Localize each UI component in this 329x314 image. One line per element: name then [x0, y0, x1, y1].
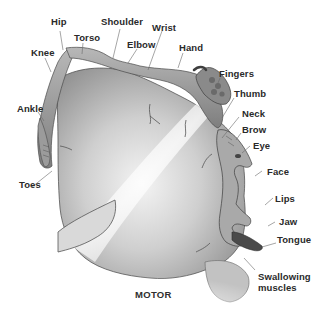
label-tongue: Tongue [277, 235, 311, 245]
label-fingers: Fingers [219, 69, 254, 79]
label-elbow: Elbow [127, 40, 155, 50]
label-jaw: Jaw [279, 217, 297, 227]
label-thumb: Thumb [234, 89, 266, 99]
label-wrist: Wrist [152, 23, 176, 33]
label-lips: Lips [275, 194, 295, 204]
label-hand: Hand [179, 43, 203, 53]
motor-homunculus-diagram: Hip Torso Shoulder Wrist Knee Elbow Hand… [0, 0, 329, 314]
diagram-caption: MOTOR [135, 289, 172, 300]
label-toes: Toes [19, 180, 41, 190]
label-swallowing-muscles: Swallowing muscles [258, 272, 311, 294]
label-shoulder: Shoulder [101, 17, 143, 27]
label-face: Face [267, 167, 289, 177]
label-torso: Torso [74, 33, 100, 43]
label-ankle: Ankle [17, 104, 43, 114]
label-swallowing-line2: muscles [258, 283, 311, 294]
label-eye: Eye [253, 141, 270, 151]
label-neck: Neck [242, 109, 265, 119]
label-brow: Brow [242, 125, 266, 135]
label-knee: Knee [31, 48, 55, 58]
label-hip: Hip [51, 17, 67, 27]
